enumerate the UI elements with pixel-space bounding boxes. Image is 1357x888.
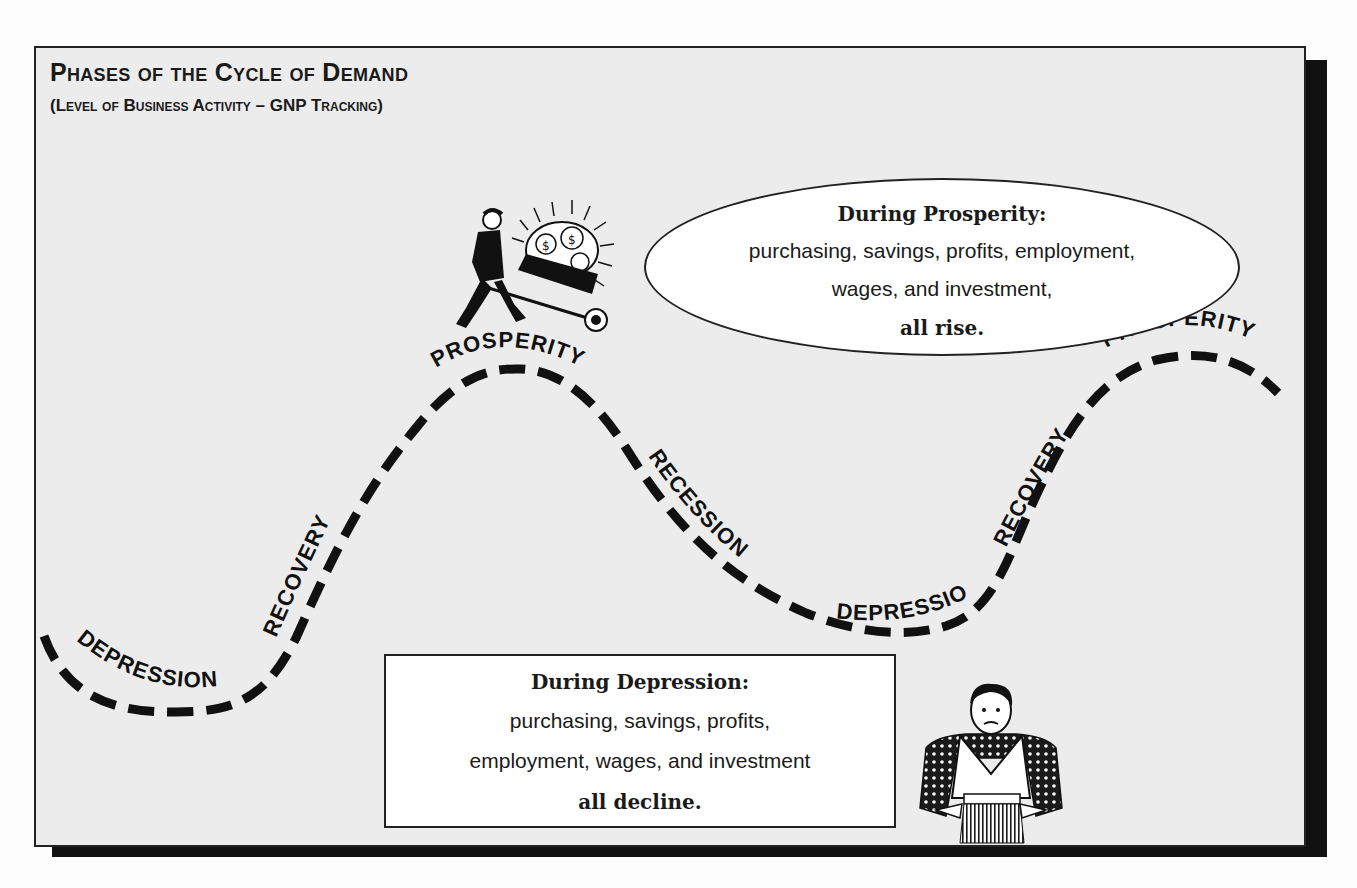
label-recovery-2: RECOVERY: [988, 423, 1073, 550]
belt-icon: [964, 794, 1020, 804]
empty-pockets-illustration: [906, 678, 1076, 847]
depression-callout-body-1: purchasing, savings, profits,: [386, 708, 894, 734]
businessman-icon: [456, 210, 526, 328]
label-recovery-1: RECOVERY: [258, 511, 336, 640]
diagram-frame: Phases of the Cycle of Demand (Level of …: [34, 46, 1306, 847]
svg-text:$: $: [542, 239, 550, 253]
sad-face-icon: [970, 684, 1012, 734]
prosperity-callout-heading: During Prosperity:: [646, 202, 1238, 226]
prosperity-callout-body-1: purchasing, savings, profits, employment…: [646, 238, 1238, 264]
depression-callout-body-2: employment, wages, and investment: [386, 748, 894, 774]
prosperity-callout-footer: all rise.: [646, 316, 1238, 340]
depression-callout-heading: During Depression:: [386, 670, 894, 694]
prosperity-callout: During Prosperity: purchasing, savings, …: [644, 178, 1240, 356]
depression-callout-footer: all decline.: [386, 790, 894, 814]
svg-text:$: $: [568, 233, 576, 247]
label-depression-1: DEPRESSION: [73, 625, 219, 693]
trousers-icon: [960, 804, 1024, 843]
prosperity-callout-body-2: wages, and investment,: [646, 276, 1238, 302]
wheelbarrow-money-illustration: $ $: [422, 198, 622, 343]
depression-callout: During Depression: purchasing, savings, …: [384, 654, 896, 828]
